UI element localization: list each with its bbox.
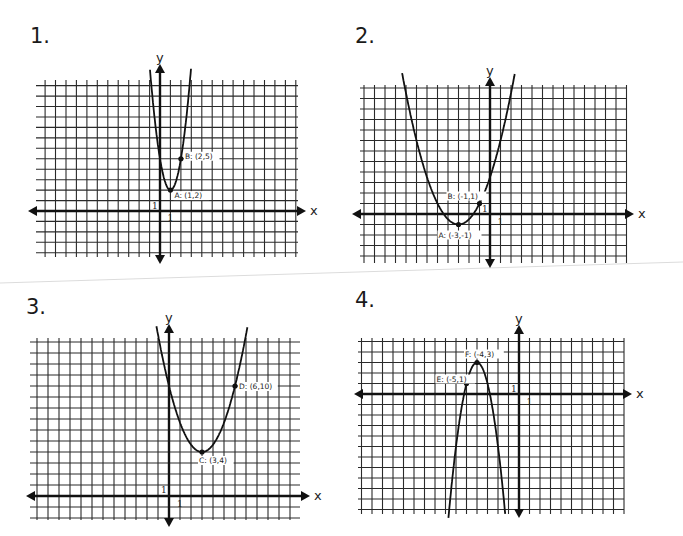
point-label-b: B: (-1,1) xyxy=(448,192,479,201)
point-label-a: A: (1,2) xyxy=(174,191,202,200)
y-axis-up-arrow-icon xyxy=(155,64,165,73)
x-axis-right-arrow-icon xyxy=(297,206,306,216)
grid xyxy=(360,85,627,263)
x-axis-left-arrow-icon xyxy=(354,389,363,399)
x-axis-label: x xyxy=(314,488,322,503)
y-unit-label: 1 xyxy=(482,204,488,214)
x-axis-label: x xyxy=(636,386,644,401)
x-unit-label: 1 xyxy=(527,397,533,407)
point-label-d: D: (6,10) xyxy=(239,382,272,391)
point-label-e: E: (-5,1) xyxy=(437,375,467,384)
x-unit-label: 1 xyxy=(167,213,173,223)
y-axis-down-arrow-icon xyxy=(164,518,174,527)
y-unit-label: 1 xyxy=(152,201,158,211)
point-label-b: B: (2,5) xyxy=(185,152,213,161)
x-axis-left-arrow-icon xyxy=(352,209,361,219)
graph-2: xy11A: (-3,-1)B: (-1,1) xyxy=(352,63,646,268)
grid xyxy=(358,338,624,514)
worksheet-page: 1. 2. 3. 4. xy11A: (1,2)B: (2,5) xy11A: … xyxy=(0,0,683,536)
grid xyxy=(36,80,298,257)
point-label-a: A: (-3,-1) xyxy=(439,231,472,240)
y-unit-label: 1 xyxy=(511,384,517,394)
page-fold-line xyxy=(0,262,683,283)
x-axis-label: x xyxy=(638,206,646,221)
point-label-c: C: (3,4) xyxy=(199,456,227,465)
x-unit-label: 1 xyxy=(177,499,183,509)
graphs-canvas: xy11A: (1,2)B: (2,5) xy11A: (-3,-1)B: (-… xyxy=(0,0,683,536)
y-axis-down-arrow-icon xyxy=(155,255,165,264)
graph-4: xy11E: (-5,1)F: (-4,3) xyxy=(354,311,644,518)
y-axis-label: y xyxy=(486,63,494,78)
point-marker-a xyxy=(456,222,461,227)
point-marker-b xyxy=(477,201,482,206)
x-unit-label: 1 xyxy=(498,217,504,227)
x-axis-left-arrow-icon xyxy=(26,491,35,501)
x-axis-right-arrow-icon xyxy=(625,209,634,219)
y-axis-label: y xyxy=(165,310,173,325)
x-axis-right-arrow-icon xyxy=(301,491,310,501)
point-marker-d xyxy=(232,383,237,388)
y-axis-down-arrow-icon xyxy=(485,259,495,268)
y-axis-label: y xyxy=(515,311,523,326)
point-marker-b xyxy=(178,156,183,161)
x-axis-label: x xyxy=(310,203,318,218)
point-marker-a xyxy=(168,188,173,193)
point-marker-f xyxy=(474,360,479,365)
y-unit-label: 1 xyxy=(161,485,167,495)
x-axis-right-arrow-icon xyxy=(623,389,632,399)
y-axis-down-arrow-icon xyxy=(514,509,524,518)
graph-1: xy11A: (1,2)B: (2,5) xyxy=(28,50,318,264)
graph-3: xy11C: (3,4)D: (6,10) xyxy=(26,310,322,527)
x-axis-left-arrow-icon xyxy=(28,206,37,216)
y-axis-up-arrow-icon xyxy=(485,77,495,86)
point-marker-c xyxy=(199,449,204,454)
y-axis-up-arrow-icon xyxy=(164,324,174,333)
y-axis-up-arrow-icon xyxy=(514,325,524,334)
y-axis-label: y xyxy=(156,50,164,65)
point-label-f: F: (-4,3) xyxy=(465,350,494,359)
